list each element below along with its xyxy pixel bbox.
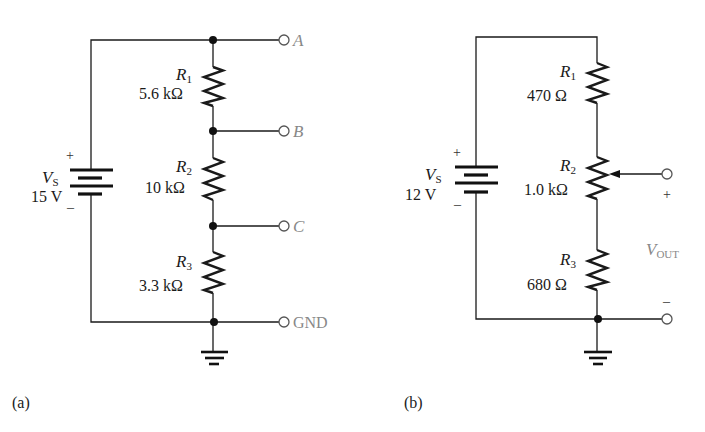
r1-value-a: 5.6 kΩ [139,85,183,102]
source-minus-b: – [453,197,462,212]
node-gnd-a [210,318,218,326]
source-symbol-a: VS [42,168,59,188]
source-minus-a: – [66,200,75,215]
wiper-arrow-icon [609,170,620,178]
terminal-vout-plus[interactable] [662,169,672,179]
battery-icon [455,167,498,192]
r1-value-b: 470 Ω [527,87,567,104]
source-plus-a: + [66,148,74,163]
r2-symbol-a: R2 [175,157,192,177]
resistor-r1-icon [588,63,607,103]
node-b [209,127,217,135]
node-a-top [209,36,217,44]
r1-symbol-a: R1 [175,65,192,85]
r2-value-a: 10 kΩ [145,179,185,196]
circuit-a: + – VS 15 V R1 5.6 kΩ R2 10 kΩ R3 3.3 kΩ… [12,31,328,412]
potentiometer-r2-icon [588,157,607,199]
r3-symbol-a: R3 [175,252,192,272]
caption-b: (b) [404,394,423,412]
terminal-c[interactable] [279,221,289,231]
ground-icon [201,352,228,364]
node-c [209,222,217,230]
terminal-a[interactable] [279,35,289,45]
vout-label: VOUT [646,240,679,260]
r1-symbol-b: R1 [559,62,576,82]
circuit-diagrams: + – VS 15 V R1 5.6 kΩ R2 10 kΩ R3 3.3 kΩ… [0,0,705,432]
source-symbol-b: VS [425,165,442,185]
resistor-r3-icon [204,252,223,293]
source-plus-b: + [453,145,461,160]
terminal-label-gnd: GND [293,314,328,331]
terminal-label-b: B [293,122,304,141]
ground-icon [584,352,612,364]
terminal-vout-minus[interactable] [662,314,672,324]
r3-symbol-b: R3 [559,250,576,270]
terminal-label-a: A [292,31,304,50]
resistor-r3-icon [588,250,607,290]
vout-plus-sign: + [663,187,671,202]
circuit-b: + – VS 12 V R1 470 Ω R2 1.0 kΩ R3 680 Ω … [404,37,679,412]
terminal-gnd[interactable] [279,317,289,327]
r2-value-b: 1.0 kΩ [524,181,568,198]
r3-value-a: 3.3 kΩ [139,277,183,294]
source-value-b: 12 V [405,186,437,203]
terminal-b[interactable] [279,126,289,136]
r3-value-b: 680 Ω [527,276,567,293]
resistor-r1-icon [204,67,223,106]
node-gnd-b [594,315,602,323]
terminal-label-c: C [293,217,305,236]
battery-icon [70,170,113,194]
resistor-r2-icon [204,158,223,200]
vout-minus-sign: – [662,294,671,309]
r2-symbol-b: R2 [559,156,576,176]
wire-top-a [91,40,279,170]
caption-a: (a) [12,394,30,412]
source-value-a: 15 V [31,188,63,205]
